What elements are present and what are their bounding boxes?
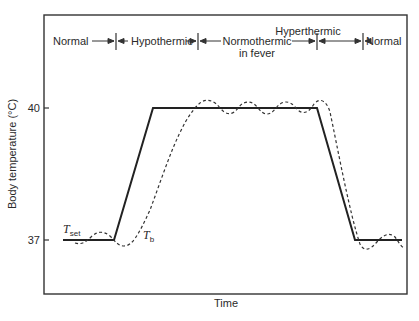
- fever-diagram: 40 37 Body temperature (°C) Time Normal …: [0, 0, 419, 321]
- ytick-label-40: 40: [28, 102, 40, 114]
- y-axis-label: Body temperature (°C): [6, 99, 18, 209]
- ytick-label-37: 37: [28, 234, 40, 246]
- x-axis-label: Time: [214, 297, 238, 309]
- tb-label: Tb: [143, 228, 155, 244]
- phase-label-hypothermic: Hypothermic: [131, 35, 193, 47]
- tset-line: [63, 108, 402, 240]
- plot-frame: [44, 15, 407, 294]
- phase-label-normal-1: Normal: [53, 35, 88, 47]
- phase-label-normothermic-line2: in fever: [239, 47, 275, 59]
- tset-label: Tset: [63, 222, 81, 238]
- phase-annotations: Normal Hypothermic Normothermic in fever…: [53, 25, 401, 59]
- tb-curve: [75, 100, 404, 249]
- phase-label-hyperthermic: Hyperthermic: [275, 25, 341, 37]
